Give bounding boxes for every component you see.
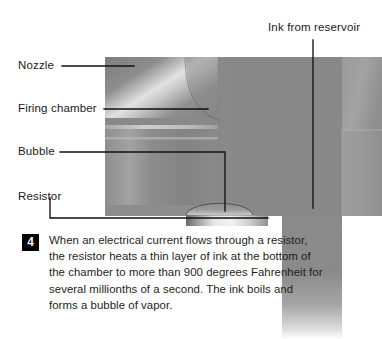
outer-ledge-right — [342, 130, 382, 216]
nozzle-plate-seam — [105, 125, 218, 129]
figure-page: Nozzle Firing chamber Bubble Resistor In… — [0, 0, 382, 339]
callout-label-firing-chamber: Firing chamber — [18, 103, 97, 115]
outer-block-far-right-top — [342, 57, 382, 130]
outer-block-right — [282, 57, 342, 222]
callout-label-nozzle: Nozzle — [18, 60, 54, 72]
callout-label-resistor: Resistor — [18, 191, 61, 203]
callout-label-ink-from-reservoir: Ink from reservoir — [268, 22, 360, 34]
resistor-strip — [186, 215, 268, 226]
chamber-wall-left-lower — [105, 128, 218, 216]
nozzle-plate-seam-lower — [105, 137, 218, 140]
callout-label-bubble: Bubble — [18, 146, 55, 158]
step-caption-text: When an electrical current flows through… — [49, 232, 324, 313]
step-number-badge: 4 — [22, 234, 39, 251]
